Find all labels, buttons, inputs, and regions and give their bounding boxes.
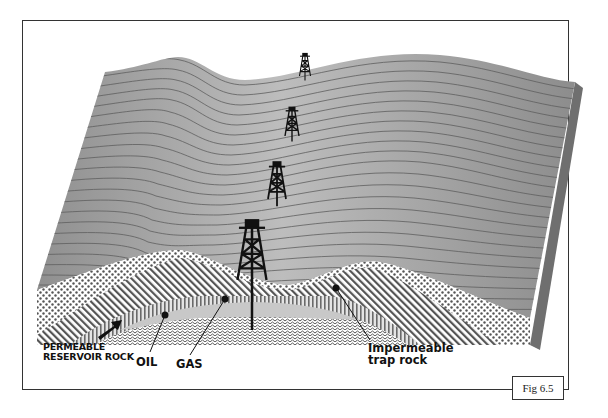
figure-caption-text: Fig 6.5 [522,382,553,394]
oil-label: OIL [136,356,157,368]
label-line: trap rock [368,354,453,366]
permeable-reservoir-rock-label: PERMEABLE RESERVOIR ROCK [43,342,134,362]
label-line: RESERVOIR ROCK [43,352,134,362]
figure-caption: Fig 6.5 [512,376,564,400]
gas-label: GAS [176,358,203,370]
figure-canvas: PERMEABLE RESERVOIR ROCK OIL GAS Imperme… [0,0,608,418]
impermeable-trap-rock-label: Impermeable trap rock [368,342,453,366]
